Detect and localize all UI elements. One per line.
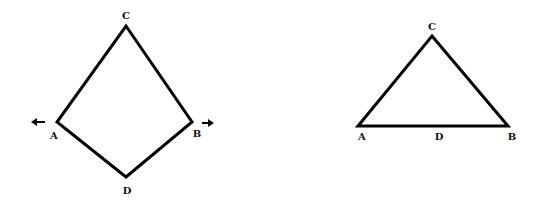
- triangle-figure: C A D B: [357, 21, 516, 142]
- vertex-label-a: A: [49, 130, 58, 141]
- triangle-outline: [358, 36, 508, 126]
- arrow-right-icon: [202, 119, 214, 127]
- kite-outline: [57, 26, 192, 177]
- vertex-label-a: A: [357, 131, 366, 142]
- vertex-label-d: D: [123, 185, 132, 196]
- point-label-d: D: [435, 131, 444, 142]
- vertex-label-b: B: [193, 128, 201, 139]
- arrow-left-icon: [31, 118, 45, 126]
- vertex-label-c: C: [122, 10, 130, 21]
- vertex-label-c: C: [428, 21, 436, 32]
- kite-figure: C A B D: [31, 10, 214, 196]
- vertex-label-b: B: [508, 131, 516, 142]
- diagram-canvas: C A B D C A D B: [0, 0, 539, 213]
